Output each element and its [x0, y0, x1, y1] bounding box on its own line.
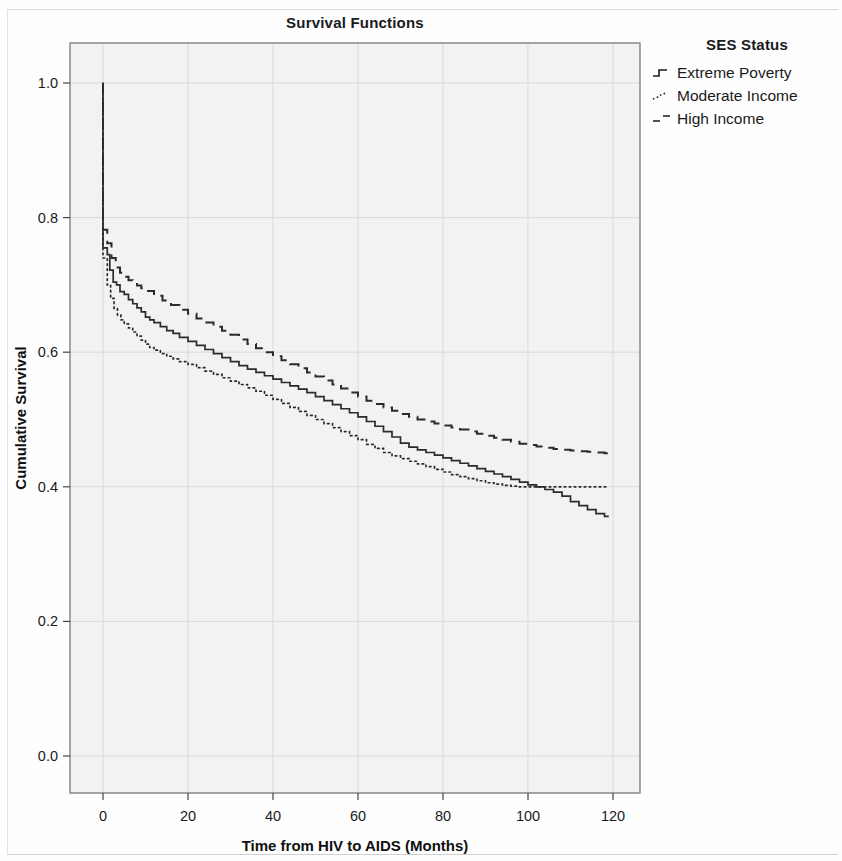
y-tick-label: 0.8 [38, 210, 58, 226]
legend: SES Status Extreme PovertyModerate Incom… [652, 36, 842, 131]
x-tick-label: 20 [180, 808, 196, 824]
legend-key-dashed-icon [652, 111, 676, 127]
x-tick-label: 0 [99, 808, 107, 824]
x-axis-title: Time from HIV to AIDS (Months) [242, 837, 469, 854]
y-tick-label: 0.0 [38, 748, 58, 764]
y-tick-label: 0.4 [38, 479, 58, 495]
legend-key-dotted-icon [652, 88, 676, 104]
legend-item[interactable]: Moderate Income [652, 85, 842, 107]
x-tick-label: 80 [435, 808, 451, 824]
y-tick-label: 0.6 [38, 344, 58, 360]
plot-background [70, 43, 640, 793]
legend-item-label: Extreme Poverty [677, 64, 792, 82]
legend-item-label: High Income [677, 110, 764, 128]
y-axis-title: Cumulative Survival [12, 346, 29, 489]
page-canvas: Survival Functions 0204060801001200.00.2… [0, 0, 842, 861]
y-tick-label: 1.0 [38, 75, 58, 91]
legend-item-list: Extreme PovertyModerate IncomeHigh Incom… [652, 62, 842, 130]
x-tick-label: 120 [601, 808, 625, 824]
y-tick-label: 0.2 [38, 613, 58, 629]
x-tick-label: 60 [350, 808, 366, 824]
x-tick-label: 100 [516, 808, 540, 824]
legend-item-label: Moderate Income [677, 87, 798, 105]
legend-key-solid-icon [652, 65, 676, 81]
legend-item[interactable]: High Income [652, 108, 842, 130]
legend-title: SES Status [652, 36, 842, 53]
legend-item[interactable]: Extreme Poverty [652, 62, 842, 84]
x-tick-label: 40 [265, 808, 281, 824]
